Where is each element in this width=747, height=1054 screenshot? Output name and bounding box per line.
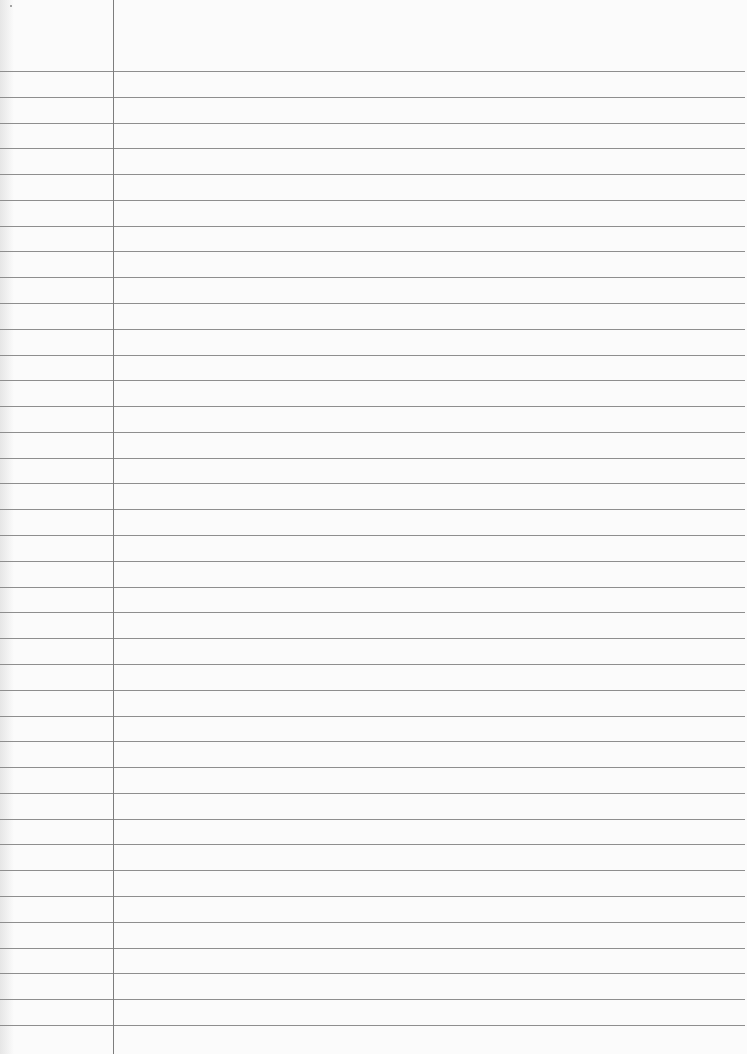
- ruled-line: [0, 896, 745, 897]
- ruled-line: [0, 587, 745, 588]
- ruled-line: [0, 251, 745, 252]
- ruled-line: [0, 741, 745, 742]
- ruled-line: [0, 612, 745, 613]
- ruled-line: [0, 844, 745, 845]
- ruled-line: [0, 380, 745, 381]
- ruled-line: [0, 948, 745, 949]
- margin-line: [113, 0, 114, 1054]
- paper-speck: [10, 5, 12, 7]
- ruled-line: [0, 716, 745, 717]
- ruled-line: [0, 200, 745, 201]
- ruled-line: [0, 561, 745, 562]
- ruled-line: [0, 664, 745, 665]
- ruled-line: [0, 97, 745, 98]
- ruled-line: [0, 767, 745, 768]
- ruled-line: [0, 406, 745, 407]
- lined-paper-sheet: [0, 0, 747, 1054]
- ruled-line: [0, 226, 745, 227]
- ruled-line: [0, 638, 745, 639]
- ruled-line: [0, 999, 745, 1000]
- ruled-line: [0, 277, 745, 278]
- ruled-line: [0, 1025, 745, 1026]
- ruled-line: [0, 71, 745, 72]
- ruled-line: [0, 870, 745, 871]
- ruled-line: [0, 509, 745, 510]
- ruled-line: [0, 483, 745, 484]
- ruled-line: [0, 174, 745, 175]
- ruled-line: [0, 148, 745, 149]
- ruled-line: [0, 355, 745, 356]
- ruled-line: [0, 535, 745, 536]
- ruled-line: [0, 329, 745, 330]
- ruled-line: [0, 432, 745, 433]
- ruled-line: [0, 973, 745, 974]
- ruled-line: [0, 819, 745, 820]
- ruled-line: [0, 123, 745, 124]
- ruled-line: [0, 458, 745, 459]
- ruled-line: [0, 690, 745, 691]
- ruled-line: [0, 922, 745, 923]
- ruled-line: [0, 303, 745, 304]
- ruled-line: [0, 793, 745, 794]
